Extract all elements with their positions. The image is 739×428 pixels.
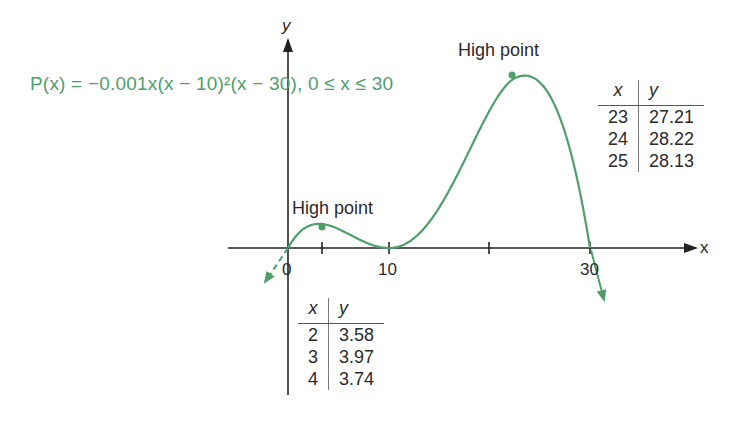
cell-y: 28.22: [639, 128, 705, 150]
cell-x: 24: [598, 128, 639, 150]
graph-figure: P(x) = −0.001x(x − 10)²(x − 30), 0 ≤ x ≤…: [0, 0, 739, 428]
function-curve: [288, 76, 590, 248]
table-header-x: x: [598, 80, 639, 106]
table-row: 23 27.21: [598, 106, 704, 129]
cell-x: 23: [598, 106, 639, 129]
table-row: 4 3.74: [298, 368, 384, 390]
y-axis-label: y: [282, 16, 291, 36]
high-point-label-right: High point: [458, 40, 539, 61]
table-row: 24 28.22: [598, 128, 704, 150]
cell-x: 2: [298, 324, 329, 347]
table-header-y: y: [329, 298, 385, 324]
cell-y: 3.97: [329, 346, 385, 368]
cell-x: 25: [598, 150, 639, 172]
function-formula: P(x) = −0.001x(x − 10)²(x − 30), 0 ≤ x ≤…: [30, 73, 393, 95]
x-tick-label-10: 10: [378, 260, 397, 280]
table-row: 2 3.58: [298, 324, 384, 347]
cell-x: 3: [298, 346, 329, 368]
table-header-y: y: [639, 80, 705, 106]
table-header-x: x: [298, 298, 329, 324]
table-row: 3 3.97: [298, 346, 384, 368]
cell-y: 3.74: [329, 368, 385, 390]
high-point-marker-right: [509, 72, 516, 79]
high-point-label-left: High point: [292, 198, 373, 219]
high-point-marker-left: [319, 224, 326, 231]
x-axis-label: x: [700, 238, 709, 258]
cell-y: 3.58: [329, 324, 385, 347]
x-tick-label-0: 0: [282, 260, 291, 280]
value-table-right: x y 23 27.21 24 28.22 25 28.13: [598, 80, 704, 172]
x-tick-label-30: 30: [580, 260, 599, 280]
table-row: 25 28.13: [598, 150, 704, 172]
cell-y: 28.13: [639, 150, 705, 172]
cell-y: 27.21: [639, 106, 705, 129]
value-table-left: x y 2 3.58 3 3.97 4 3.74: [298, 298, 384, 390]
cell-x: 4: [298, 368, 329, 390]
